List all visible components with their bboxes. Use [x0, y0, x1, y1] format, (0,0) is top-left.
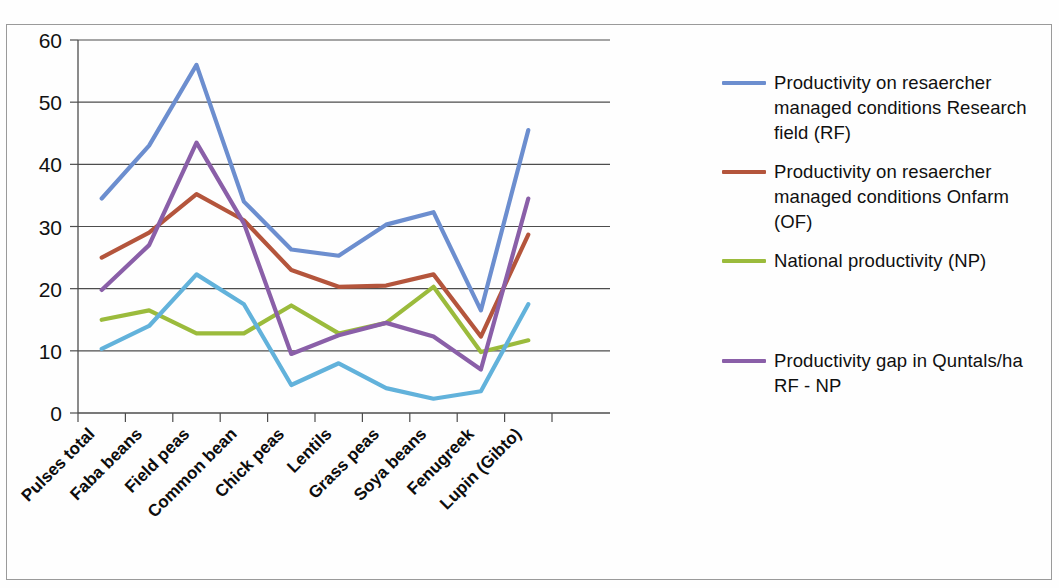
series-line-3[interactable] — [102, 274, 529, 398]
series-line-1[interactable] — [102, 194, 529, 336]
y-axis-tick-label: 10 — [39, 340, 62, 363]
y-axis-tick-label: 60 — [39, 29, 62, 52]
legend-label-rf: Productivity on resaercher managed condi… — [774, 70, 1042, 145]
legend-swatch-of — [722, 170, 766, 174]
legend-item-rf[interactable]: Productivity on resaercher managed condi… — [722, 70, 1042, 145]
series-line-4[interactable] — [102, 143, 529, 370]
legend-label-np: National productivity (NP) — [774, 248, 986, 273]
legend-item-np[interactable]: National productivity (NP) — [722, 248, 1042, 273]
chart-legend: Productivity on resaercher managed condi… — [722, 70, 1042, 412]
legend-swatch-unlabeled — [722, 298, 766, 302]
y-axis-tick-label: 30 — [39, 216, 62, 239]
legend-item-unlabeled[interactable] — [722, 287, 1042, 302]
legend-label-gap: Productivity gap in Quntals/ha RF - NP — [774, 348, 1042, 398]
legend-label-of: Productivity on resaercher managed condi… — [774, 159, 1042, 234]
chart-page: 0102030405060Pulses totalFaba beansField… — [0, 0, 1059, 588]
y-axis-tick-label: 20 — [39, 278, 62, 301]
legend-swatch-gap — [722, 359, 766, 363]
series-line-2[interactable] — [102, 287, 529, 352]
legend-item-of[interactable]: Productivity on resaercher managed condi… — [722, 159, 1042, 234]
y-axis-tick-label: 0 — [50, 402, 62, 425]
y-axis-tick-label: 50 — [39, 91, 62, 114]
legend-swatch-np — [722, 259, 766, 263]
y-axis-tick-label: 40 — [39, 153, 62, 176]
legend-swatch-rf — [722, 81, 766, 85]
legend-item-gap[interactable]: Productivity gap in Quntals/ha RF - NP — [722, 348, 1042, 398]
